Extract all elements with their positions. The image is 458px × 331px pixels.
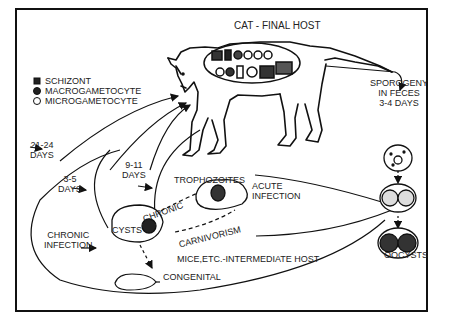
label-trophozoites: TROPHOZOITES [174,175,245,185]
legend-schizont: SCHIZONT [45,76,91,86]
label-chronic-infection: CHRONICINFECTION [44,230,93,250]
diagram-title: CAT - FINAL HOST [234,21,321,31]
microgametocyte-icon [34,98,41,105]
mouse-congenital [115,274,156,290]
label-9-11-days: 9-11DAYS [122,160,146,180]
legend-icons [34,78,41,105]
legend-macrogametocyte: MACROGAMETOCYTE [45,86,141,96]
schizont-icon [34,78,40,84]
oocyst-stages [378,145,418,258]
lifecycle-diagram [0,0,458,331]
label-congenital: CONGENITAL [163,272,221,282]
legend-microgametocyte: MICROGAMETOCYTE [45,96,138,106]
label-acute-infection: ACUTEINFECTION [252,181,301,201]
label-cysts: CYSTS [112,225,142,235]
label-sporogeny: SPOROGENYIN FECES3-4 DAYS [370,78,428,108]
label-oocysts: OOCYSTS [384,250,428,260]
label-21-24-days: 21-24DAYS [30,140,54,160]
label-intermediate-host: MICE,ETC.-INTERMEDIATE HOST [177,254,319,264]
label-3-5-days: 3-5DAYS [58,174,82,194]
cat-intestine [204,43,300,83]
macrogametocyte-icon [34,88,41,95]
